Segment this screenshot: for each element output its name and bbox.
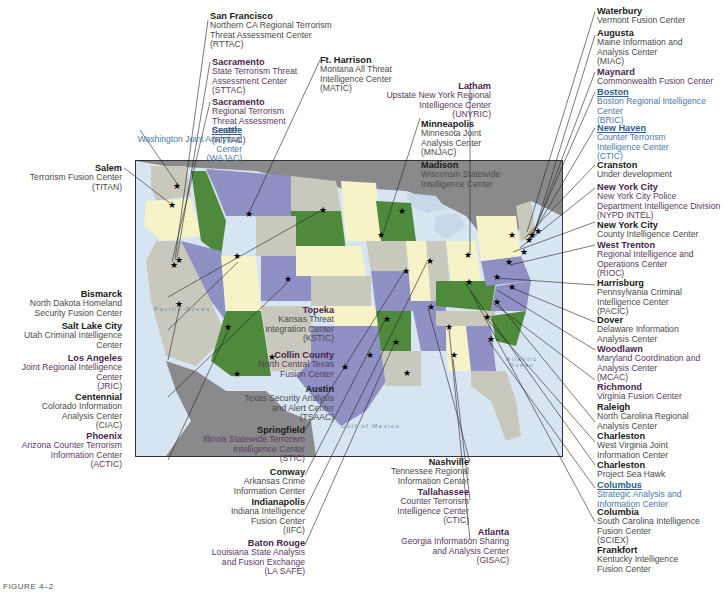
label-new-haven[interactable]: New HavenCounter Terrorism Intelligence … [597,124,669,162]
label-topeka: TopekaKansas Threat Integration Center (… [265,306,334,344]
label-atlanta: AtlantaGeorgia Information Sharing and A… [401,528,509,566]
label-cranston: CranstonUnder development [597,161,672,180]
label-ft-harrison: Ft. HarrisonMontana All Threat Intellige… [320,56,392,94]
label-baton-rouge: Baton RougeLouisiana State Analysis and … [212,539,305,577]
label-woodlawn: WoodlawnMaryland Coordination and Analys… [597,345,700,383]
label-seattle[interactable]: SeattleWashington Joint Analytical Cente… [138,126,242,164]
label-latham: LathamUpstate New York Regional Intellig… [386,82,491,120]
label-west-trenton: West TrentonRegional Intelligence and Op… [597,241,694,279]
pacific-ocean-label: Pacific Ocean [154,306,211,312]
label-frankfort: FrankfortKentucky Intelligence Fusion Ce… [597,546,678,574]
label-charleston-sc: CharlestonProject Sea Hawk [597,461,665,480]
label-harrisburg: HarrisburgPennsylvania Criminal Intellig… [597,279,682,317]
label-nyc-county: New York CityCounty Intelligence Center [597,221,698,240]
label-minneapolis: MinneapolisMinnesota Joint Analysis Cent… [421,120,481,158]
label-madison: MadisonWisconsin Statewide Intelligence … [421,161,500,189]
gulf-of-mexico-label: Gulf of Mexico [341,423,400,429]
label-collin-county: Collin CountyNorth Central Texas Fusion … [258,351,334,379]
label-augusta: AugustaMaine Information and Analysis Ce… [597,29,683,67]
label-salt-lake-city: Salt Lake CityUtah Criminal Intelligence… [24,322,122,350]
label-los-angeles: Los AngelesJoint Regional Intelligence C… [22,354,122,392]
label-boston[interactable]: BostonBoston Regional Intelligence Cente… [597,88,706,126]
label-conway: ConwayArkansas Crime Information Center [234,468,305,496]
label-springfield: SpringfieldIllinois Statewide Terrorism … [203,426,305,464]
label-austin: AustinTexas Security Analysis and Alert … [244,385,334,423]
label-bismarck: BismarckNorth Dakota Homeland Security F… [30,290,122,318]
label-richmond: RichmondVirginia Fusion Center [597,383,682,402]
label-maynard: MaynardCommonwealth Fusion Center [597,68,713,87]
label-charleston-wv: CharlestonWest Virginia Joint Informatio… [597,432,668,460]
figure-caption: FIGURE 4–2 [3,582,54,591]
label-nashville: NashvilleTennessee Regional Information … [391,458,469,486]
label-phoenix: PhoenixArizona Counter Terrorism Informa… [22,432,122,470]
label-san-francisco: San FranciscoNorthern CA Regional Terror… [210,12,332,50]
label-dover: DoverDelaware Information Analysis Cente… [597,316,679,344]
label-sacramento-sttac: SacramentoState Terrorism Threat Assessm… [212,58,297,96]
label-raleigh: RaleighNorth Carolina Regional Analysis … [597,403,689,431]
label-salem: SalemTerrorism Fusion Center (TITAN) [30,164,122,192]
label-nyc-nypd: New York CityNew York City Police Depart… [597,183,720,221]
us-map: Pacific Ocean Atlantic Ocean Gulf of Mex… [135,160,563,457]
label-waterbury: WaterburyVermont Fusion Center [597,7,685,26]
label-columbia: ColumbiaSouth Carolina Intelligence Fusi… [597,508,700,546]
label-indianapolis: IndianapolisIndiana Intelligence Fusion … [231,498,305,536]
label-tallahassee: TallahasseeCounter Terrorism Intelligenc… [397,488,469,526]
label-centennial: CentennialColorado Information Analysis … [42,393,122,431]
atlantic-ocean-label: Atlantic Ocean [506,356,538,368]
label-columbus[interactable]: ColumbusStrategic Analysis and Informati… [597,481,682,509]
